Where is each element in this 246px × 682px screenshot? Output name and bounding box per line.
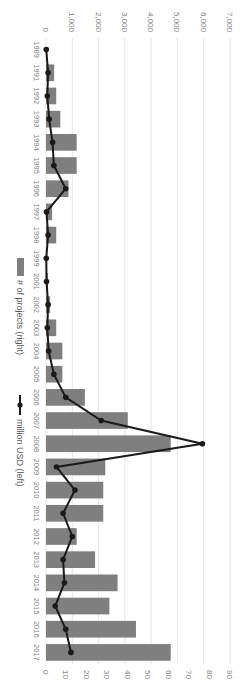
x-tick-label: 1996: [32, 180, 41, 197]
x-tick-label: 2006: [32, 389, 41, 406]
left-axis-tick-label: 0: [41, 28, 50, 33]
line-marker-2008: [200, 441, 206, 447]
line-marker-2007: [98, 418, 104, 424]
line-marker-1993: [46, 116, 52, 122]
line-marker-1991: [45, 70, 51, 76]
left-axis-tick-label: 6,000: [199, 12, 208, 33]
x-tick-label: 2001: [32, 273, 41, 290]
x-tick-label: 2002: [32, 296, 41, 313]
line-marker-2013: [60, 557, 66, 563]
x-tick-label: 2016: [32, 621, 41, 638]
x-tick-label: 2010: [32, 482, 41, 499]
left-axis-tick-label: 7,000: [225, 12, 234, 33]
x-tick-label: 2014: [32, 575, 41, 592]
right-axis-tick-label: 0: [41, 670, 50, 675]
x-tick-label: 2007: [32, 412, 41, 429]
combo-chart: 01,0002,0003,0004,0005,0006,0007,000 010…: [0, 0, 246, 682]
chart-rotated-container: 01,0002,0003,0004,0005,0006,0007,000 010…: [0, 0, 246, 682]
x-axis-ticks: 1989199119921993199419951996199719981999…: [32, 41, 41, 661]
line-marker-2015: [52, 603, 58, 609]
line-marker-2001: [44, 279, 50, 285]
left-axis-tick-label: 1,000: [67, 12, 76, 33]
bar-1995: [46, 157, 77, 174]
x-tick-label: 2017: [32, 644, 41, 661]
bar-2007: [46, 412, 128, 429]
x-tick-label: 1992: [32, 88, 41, 105]
x-tick-label: 1994: [32, 134, 41, 151]
left-axis-tick-label: 5,000: [172, 12, 181, 33]
line-marker-1996: [63, 186, 69, 192]
x-tick-label: 1995: [32, 157, 41, 174]
line-marker-2012: [69, 534, 75, 540]
x-tick-label: 1999: [32, 250, 41, 267]
right-axis-tick-label: 50: [143, 670, 152, 679]
bar-2016: [46, 621, 136, 638]
legend-bars-label: # of projects (right): [15, 280, 25, 355]
right-axis-tick-label: 10: [61, 670, 70, 679]
legend-line-marker: [17, 402, 22, 407]
right-axis-tick-label: 30: [102, 670, 111, 679]
right-axis-tick-label: 80: [205, 670, 214, 679]
line-marker-1999: [43, 255, 49, 261]
x-tick-label: 1989: [32, 41, 41, 58]
x-tick-label: 2011: [32, 505, 41, 521]
line-marker-1992: [45, 93, 51, 99]
line-marker-1998: [45, 232, 51, 238]
right-axis-ticks: 0102030405060708090: [41, 670, 234, 679]
line-marker-2003: [45, 325, 51, 331]
x-tick-label: 2003: [32, 319, 41, 336]
line-marker-2011: [60, 510, 66, 516]
line-marker-2009: [54, 464, 60, 470]
right-axis-tick-label: 70: [184, 670, 193, 679]
legend: # of projects (right) million USD (left): [15, 258, 25, 487]
x-tick-label: 2015: [32, 598, 41, 615]
x-tick-label: 1993: [32, 111, 41, 128]
line-marker-2006: [63, 395, 69, 401]
line-marker-2002: [45, 302, 51, 308]
left-axis-ticks: 01,0002,0003,0004,0005,0006,0007,000: [41, 12, 234, 33]
x-tick-label: 2012: [32, 528, 41, 545]
x-tick-label: 1997: [32, 204, 41, 221]
gridlines: [46, 38, 230, 664]
x-tick-label: 2008: [32, 435, 41, 452]
bar-2011: [46, 505, 103, 522]
line-marker-2017: [68, 650, 74, 656]
line-marker-2016: [63, 626, 69, 632]
bar-2008: [46, 435, 171, 452]
line-marker-1994: [50, 140, 56, 146]
right-axis-tick-label: 20: [82, 670, 91, 679]
line-marker-2010: [72, 487, 78, 493]
line-marker-1997: [44, 209, 50, 215]
bar-2013: [46, 551, 95, 568]
x-tick-label: 2013: [32, 551, 41, 568]
x-tick-label: 1998: [32, 227, 41, 244]
line-marker-2014: [62, 580, 68, 586]
bar-2014: [46, 575, 118, 592]
x-tick-label: 1991: [32, 64, 41, 81]
left-axis-tick-label: 3,000: [120, 12, 129, 33]
left-axis-tick-label: 2,000: [94, 12, 103, 33]
x-tick-label: 2009: [32, 459, 41, 476]
legend-line-label: million USD (left): [15, 419, 25, 487]
line-marker-1989: [43, 47, 49, 53]
line-marker-2005: [51, 371, 57, 377]
left-axis-tick-label: 4,000: [146, 12, 155, 33]
right-axis-tick-label: 40: [123, 670, 132, 679]
line-marker-1995: [51, 163, 57, 169]
bar-2017: [46, 644, 171, 661]
right-axis-tick-label: 90: [225, 670, 234, 679]
x-tick-label: 2004: [32, 343, 41, 360]
legend-bar-swatch: [17, 258, 24, 276]
x-tick-label: 2005: [32, 366, 41, 383]
right-axis-tick-label: 60: [164, 670, 173, 679]
line-marker-2004: [46, 348, 52, 354]
